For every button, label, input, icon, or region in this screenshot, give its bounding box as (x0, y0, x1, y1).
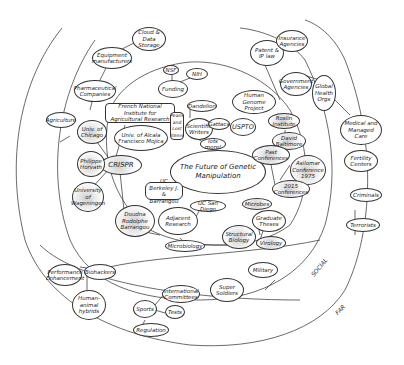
node-insurance[interactable]: Insurance Agencies (276, 30, 308, 52)
node-intl-committees[interactable]: International Committees (162, 285, 200, 303)
node-2015-conferences[interactable]: 2015 Conferences (272, 180, 310, 198)
node-microbes[interactable]: Microbes (242, 198, 272, 210)
node-performance[interactable]: Performance Enhancement (48, 264, 82, 286)
node-government[interactable]: Government Agencies (280, 72, 312, 96)
node-terrorists[interactable]: Terrorists (346, 218, 380, 232)
node-tests[interactable]: Tests (165, 305, 185, 319)
node-lots-more[interactable]: lots more! (200, 138, 226, 150)
node-biohackers[interactable]: Biohackers (84, 264, 116, 280)
node-sports[interactable]: Sports (133, 300, 157, 318)
node-funding[interactable]: Funding (158, 80, 188, 98)
node-dandelion[interactable]: Dandelion (187, 100, 217, 112)
node-philippe-horvath[interactable]: Philippe Horvath (77, 151, 105, 177)
node-fertility[interactable]: Fertility Centers (344, 150, 378, 172)
node-doudna-barrangou[interactable]: Doudna Rodolphe Barrangou (115, 205, 155, 237)
node-french-institute[interactable]: French National Institute for Agricultur… (105, 103, 175, 123)
node-graduate-theses[interactable]: Graduate Theses (252, 210, 286, 232)
node-pearls-lost[interactable]: Pearls and Lost Items (170, 112, 184, 140)
node-medical-care[interactable]: Medical and Managed Care (340, 115, 382, 145)
node-hybrids[interactable]: Human-animal hybrids (72, 290, 106, 320)
node-nih[interactable]: NIH (186, 68, 208, 80)
node-past-conferences[interactable]: Past Conferences (252, 145, 290, 165)
node-uc-berkeley[interactable]: UC Berkeley J. & Barrangou (145, 182, 183, 200)
node-microbiology[interactable]: Microbiology (165, 240, 205, 252)
node-adjacent-research[interactable]: Adjacent Research (158, 207, 198, 235)
node-structural-biology[interactable]: Structural Biology (222, 225, 256, 249)
node-uspto[interactable]: USPTO (230, 118, 256, 136)
node-regulation[interactable]: Regulation (133, 323, 169, 337)
node-super-soldiers[interactable]: Super Soldiers (210, 278, 244, 302)
node-cloud-storage[interactable]: Cloud & Data Storage (132, 27, 166, 51)
node-equipment[interactable]: Equipment manufacturers (92, 47, 132, 69)
node-gattaca[interactable]: Gattaca (208, 118, 230, 130)
node-univ-wageningen[interactable]: University of Wageningen (72, 182, 104, 212)
node-human-genome[interactable]: Human Genome Project (232, 90, 276, 114)
node-military[interactable]: Military (248, 262, 278, 278)
node-crispr[interactable]: CRISPR (100, 155, 142, 175)
node-criminals[interactable]: Criminals (350, 188, 382, 202)
node-nsf[interactable]: NSF (163, 65, 179, 75)
node-agriculture[interactable]: Agriculture (46, 112, 76, 128)
node-global-health[interactable]: Global Health Orgs (312, 75, 336, 111)
node-univ-alcala[interactable]: Univ. of Alcala Francisco Mojica (114, 125, 168, 151)
node-pharma[interactable]: Pharmaceutical Companies (74, 80, 116, 102)
node-uc-san-diego[interactable]: UC San Diego (190, 200, 226, 212)
node-roslin[interactable]: Roslin Institute (268, 113, 300, 129)
node-univ-chicago[interactable]: Univ. of Chicago (77, 120, 107, 144)
node-virology[interactable]: Virology (256, 236, 286, 250)
mind-map-canvas: SOCIAL FAR The Future of Genetic Manipul… (0, 0, 404, 365)
